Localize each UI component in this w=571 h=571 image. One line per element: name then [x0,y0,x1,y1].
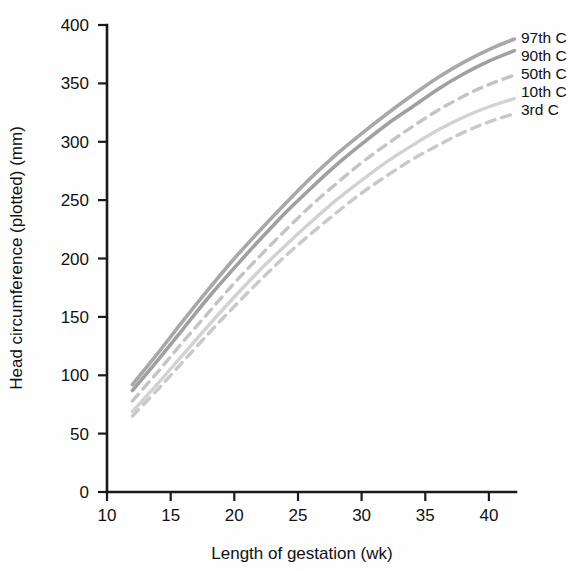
legend-label-3rd-c: 3rd C [521,101,559,118]
x-tick-label: 15 [161,506,180,525]
legend-label-10th-c: 10th C [521,83,567,100]
x-tick-label: 20 [225,506,244,525]
y-tick-label: 0 [80,483,89,502]
percentile-curve-3rd-c [132,114,514,416]
x-tick-label: 40 [479,506,498,525]
y-tick-label: 350 [61,74,89,93]
y-tick-label: 150 [61,308,89,327]
y-tick-label: 300 [61,133,89,152]
y-axis-title: Head circumference (plotted) (mm) [7,126,26,390]
chart-plot-area: 050100150200250300350400 10152025303540 … [0,0,571,571]
x-axis-title: Length of gestation (wk) [211,544,392,563]
legend-label-50th-c: 50th C [521,65,567,82]
y-tick-label: 100 [61,366,89,385]
legend-label-97th-c: 97th C [521,29,567,46]
x-tick-label: 25 [288,506,307,525]
y-tick-label: 200 [61,250,89,269]
x-tick-label: 30 [352,506,371,525]
y-axis-ticks: 050100150200250300350400 [61,16,107,502]
growth-chart-figure: 050100150200250300350400 10152025303540 … [0,0,571,571]
x-axis-ticks: 10152025303540 [98,492,499,525]
percentile-curve-10th-c [132,99,514,412]
percentile-curves [132,39,514,416]
x-tick-label: 10 [98,506,117,525]
x-tick-label: 35 [416,506,435,525]
y-tick-label: 250 [61,191,89,210]
chart-legend: 97th C90th C50th C10th C3rd C [521,29,567,118]
percentile-curve-90th-c [132,51,514,391]
chart-axes [107,25,516,492]
y-tick-label: 50 [70,425,89,444]
legend-label-90th-c: 90th C [521,47,567,64]
y-tick-label: 400 [61,16,89,35]
